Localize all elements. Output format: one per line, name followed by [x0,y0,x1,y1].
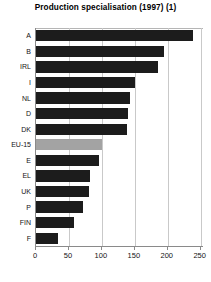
category-label-d: D [26,110,31,117]
x-tick-label: 200 [160,252,173,260]
bar-row [36,170,203,181]
bar-i [36,77,135,88]
bar-row [36,124,203,135]
bar-a [36,30,193,41]
x-tick [167,247,168,250]
bar-row [36,46,203,57]
x-tick-label: 100 [95,252,108,260]
bar-row [36,30,203,41]
bar-row [36,139,203,150]
category-label-b: B [26,48,31,55]
category-label-i: I [29,79,31,86]
x-tick-label: 250 [193,252,206,260]
category-label-uk: UK [21,188,31,195]
bar-row [36,233,203,244]
category-label-nl: NL [22,95,31,102]
bar-row [36,155,203,166]
bar-row [36,201,203,212]
category-label-f: F [27,235,31,242]
x-axis-tick-labels: 050100150200250 [35,252,203,266]
bar-d [36,108,128,119]
x-tick-label: 0 [33,252,37,260]
x-tick [134,247,135,250]
category-label-irl: IRL [20,63,31,70]
bar-p [36,201,83,212]
bar-e [36,155,99,166]
bar-row [36,108,203,119]
chart-container: Production specialisation (1997) (1) ABI… [0,0,211,282]
plot-area [35,28,203,246]
bar-row [36,61,203,72]
x-tick [200,247,201,250]
bar-series [36,28,203,246]
bar-el [36,170,90,181]
x-tick-label: 150 [128,252,141,260]
category-label-a: A [26,32,31,39]
x-tick-label: 50 [64,252,72,260]
category-label-fin: FIN [20,219,31,226]
category-label-el: EL [22,172,31,179]
bar-b [36,46,164,57]
x-tick [35,247,36,250]
category-label-dk: DK [21,126,31,133]
category-label-p: P [26,204,31,211]
bar-row [36,77,203,88]
x-tick [68,247,69,250]
category-label-e: E [26,157,31,164]
bar-row [36,186,203,197]
bar-row [36,92,203,103]
bar-row [36,217,203,228]
chart-title: Production specialisation (1997) (1) [0,3,211,12]
x-tick [101,247,102,250]
bar-fin [36,217,74,228]
bar-nl [36,92,130,103]
y-axis-category-labels: ABIRLINLDDKEU-15EELUKPFINF [0,28,33,246]
bar-f [36,233,58,244]
bar-uk [36,186,89,197]
bar-dk [36,124,127,135]
bar-eu-15 [36,139,102,150]
category-label-eu-15: EU-15 [11,141,31,148]
bar-irl [36,61,158,72]
